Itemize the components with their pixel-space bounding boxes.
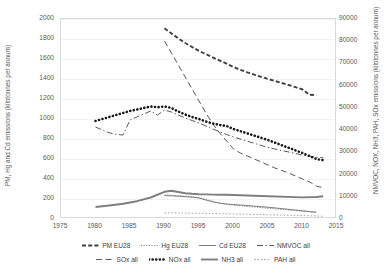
series-line (165, 196, 317, 213)
y-axis-left-tick-label: 400 (20, 174, 54, 181)
series-line (165, 41, 324, 188)
y-axis-left-title: PM, Hg and Cd emissions (kilotonnes per … (4, 40, 12, 190)
legend-label: PM EU28 (102, 242, 130, 249)
legend-swatch (96, 256, 113, 263)
legend-swatch (149, 256, 166, 263)
y-axis-left-tick-label: 1200 (20, 94, 54, 101)
legend-item[interactable]: NOx all (149, 256, 191, 263)
x-axis-tick-label: 1975 (45, 222, 75, 229)
legend-row: PM EU28Hg EU28Cd EU28NMVOC all (0, 238, 392, 252)
legend-label: Cd EU28 (219, 242, 246, 249)
x-axis-tick-label: 1980 (80, 222, 110, 229)
series-line (165, 28, 317, 95)
legend-swatch (254, 256, 271, 263)
y-axis-right-tick-label: 30000 (339, 147, 375, 154)
series-line (96, 110, 324, 158)
x-axis-tick-label: 1985 (114, 222, 144, 229)
x-axis-tick-label: 1995 (183, 222, 213, 229)
legend-row: SOx allNOx allNH3 allPAH all (0, 252, 392, 266)
legend-item[interactable]: NMVOC all (257, 242, 310, 249)
y-axis-left-tick-label: 1000 (20, 114, 54, 121)
y-axis-left-tick-label: 2000 (20, 14, 54, 21)
emissions-chart: PM, Hg and Cd emissions (kilotonnes per … (0, 0, 392, 277)
y-axis-right-tick-label: 50000 (339, 103, 375, 110)
legend-swatch (199, 242, 216, 249)
y-axis-left-tick-label: 1800 (20, 34, 54, 41)
legend-label: PAH all (274, 256, 296, 263)
y-axis-right-tick-label: 60000 (339, 81, 375, 88)
y-axis-right-tick-label: 80000 (339, 36, 375, 43)
x-axis-tick-label: 2005 (252, 222, 282, 229)
y-axis-right-tick-label: 40000 (339, 125, 375, 132)
legend-swatch (257, 242, 274, 249)
y-axis-right-tick-label: 20000 (339, 170, 375, 177)
legend-label: NH3 all (221, 256, 243, 263)
legend-item[interactable]: PM EU28 (82, 242, 130, 249)
y-axis-left-tick-label: 800 (20, 134, 54, 141)
legend-label: SOx all (116, 256, 137, 263)
legend-item[interactable]: Cd EU28 (199, 242, 246, 249)
y-axis-right-tick-label: 70000 (339, 58, 375, 65)
y-axis-left-tick-label: 1600 (20, 54, 54, 61)
legend-label: Hg EU28 (161, 242, 188, 249)
legend-label: NOx all (169, 256, 191, 263)
y-axis-right-tick-label: 90000 (339, 14, 375, 21)
series-lines (61, 19, 337, 219)
legend-swatch (201, 256, 218, 263)
legend-swatch (141, 242, 158, 249)
y-axis-left-tick-label: 200 (20, 194, 54, 201)
x-axis-tick-label: 2010 (287, 222, 317, 229)
plot-area (60, 18, 336, 218)
series-line (96, 191, 324, 207)
x-axis-tick-label: 2015 (321, 222, 351, 229)
legend-item[interactable]: NH3 all (201, 256, 243, 263)
x-axis-tick-label: 1990 (149, 222, 179, 229)
y-axis-left-tick-label: 0 (20, 214, 54, 221)
legend-item[interactable]: Hg EU28 (141, 242, 188, 249)
chart-legend: PM EU28Hg EU28Cd EU28NMVOC allSOx allNOx… (0, 238, 392, 266)
legend-item[interactable]: SOx all (96, 256, 137, 263)
series-line (165, 213, 324, 216)
legend-swatch (82, 242, 99, 249)
legend-item[interactable]: PAH all (254, 256, 296, 263)
x-axis-tick-label: 2000 (218, 222, 248, 229)
legend-label: NMVOC all (277, 242, 310, 249)
y-axis-right-tick-label: 10000 (339, 192, 375, 199)
y-axis-right-tick-label: 0 (339, 214, 375, 221)
y-axis-left-tick-label: 1400 (20, 74, 54, 81)
y-axis-left-tick-label: 600 (20, 154, 54, 161)
